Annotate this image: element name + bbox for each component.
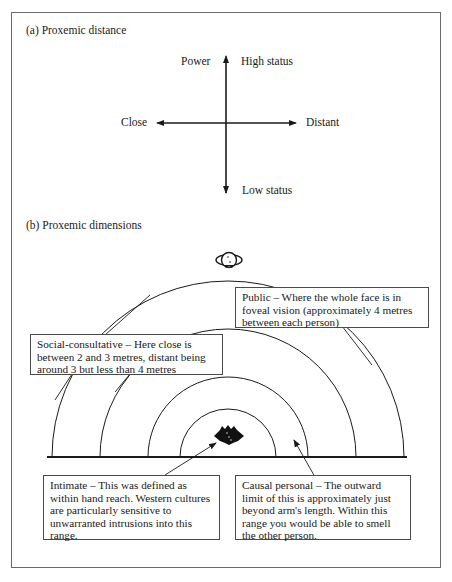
zone-box-public: Public – Where the whole face is in fove… [235,287,429,328]
zone-box-causal-personal: Causal personal – The outward limit of t… [235,475,411,540]
leader-intimate [165,443,216,475]
person-head-icon [216,253,242,269]
proxemic-axes [157,56,296,193]
leader-public-right [342,326,372,365]
person-top-view-icon [214,425,244,445]
zone-box-social-consultative: Social-consultative – Here close is betw… [30,334,223,375]
leader-public [105,295,150,335]
leader-social-right [115,374,130,392]
leader-social-left [55,374,72,400]
arc-personal [148,377,308,457]
zone-box-intimate: Intimate – This was defined as within ha… [43,475,220,540]
leader-causal [294,440,315,477]
